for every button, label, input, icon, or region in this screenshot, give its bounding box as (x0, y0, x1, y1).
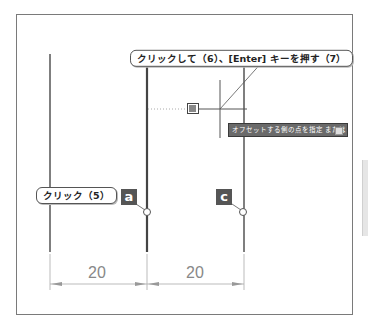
callout-click-enter: クリックして（6）、[Enter] キーを押す（7） (130, 50, 353, 67)
dimension-value-2: 20 (186, 264, 204, 282)
pick-point-a[interactable] (144, 209, 151, 216)
dropdown-icon[interactable] (335, 127, 343, 135)
leader-a (136, 204, 145, 210)
callout-leader (220, 60, 264, 109)
arrowhead (51, 282, 62, 286)
arrowhead (232, 282, 243, 286)
label-c: c (216, 189, 232, 205)
tooltip-text: オフセットする側の点を指定 または (232, 126, 346, 134)
dimension-value-1: 20 (88, 264, 106, 282)
dynamic-input-box[interactable] (187, 103, 199, 114)
arrowhead (135, 282, 146, 286)
label-a: a (121, 189, 137, 205)
pick-point-c[interactable] (240, 209, 247, 216)
arrowhead (148, 282, 159, 286)
input-glyph-icon (189, 105, 196, 112)
command-prompt-tooltip: オフセットする側の点を指定 または (228, 123, 348, 137)
leader-c (232, 204, 241, 210)
callout-click: クリック（5） (36, 187, 117, 204)
